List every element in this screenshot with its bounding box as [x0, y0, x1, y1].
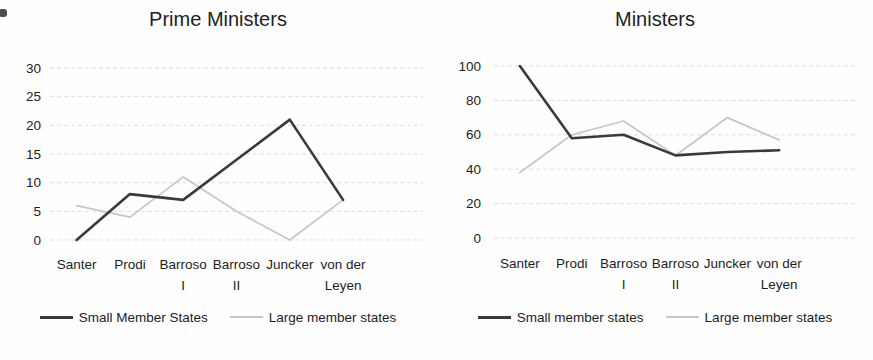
legend-label: Large member states [269, 310, 397, 325]
x-category-label: Barroso [213, 257, 260, 272]
legend-label: Small Member States [79, 310, 208, 325]
y-tick-label: 80 [466, 93, 481, 108]
y-tick-label: 10 [26, 175, 41, 190]
legend: Small Member States Large member states [0, 306, 436, 328]
series-line-marker [40, 316, 73, 319]
x-category-label: Santer [500, 256, 540, 271]
series-line-marker [230, 316, 263, 318]
x-category-label: Santer [57, 257, 97, 272]
x-category-label: Barroso [600, 256, 647, 271]
figure-two-line-charts: Prime Ministers 051015202530SanterProdiB… [0, 0, 873, 360]
x-category-label: Leyen [325, 278, 362, 293]
x-category-label: von der [757, 256, 803, 271]
x-category-label: Barroso [160, 257, 207, 272]
y-tick-label: 60 [466, 127, 481, 142]
legend-item: Large member states [666, 310, 833, 325]
y-tick-label: 20 [26, 118, 41, 133]
x-category-label: I [622, 277, 626, 292]
x-category-label: II [233, 278, 241, 293]
legend-item: Large member states [230, 310, 397, 325]
series-line-marker [666, 316, 699, 318]
y-tick-label: 40 [466, 162, 481, 177]
series-polyline [77, 177, 344, 240]
x-category-label: Prodi [556, 256, 588, 271]
x-category-label: Prodi [114, 257, 146, 272]
y-tick-label: 30 [26, 61, 41, 76]
y-tick-label: 5 [33, 204, 41, 219]
x-category-label: von der [321, 257, 367, 272]
x-category-label: Juncker [266, 257, 314, 272]
legend: Small member states Large member states [437, 306, 873, 328]
x-category-label: Juncker [704, 256, 752, 271]
legend-label: Small member states [517, 310, 644, 325]
chart-prime-ministers: Prime Ministers 051015202530SanterProdiB… [0, 0, 436, 360]
y-tick-label: 100 [458, 59, 481, 74]
plot-area: 051015202530SanterProdiBarrosoIBarrosoII… [0, 0, 436, 300]
x-category-label: Barroso [652, 256, 699, 271]
x-category-label: II [672, 277, 680, 292]
x-category-label: Leyen [761, 277, 798, 292]
legend-label: Large member states [705, 310, 833, 325]
x-category-label: I [181, 278, 185, 293]
y-tick-label: 0 [33, 233, 41, 248]
y-tick-label: 0 [473, 231, 481, 246]
plot-area: 020406080100SanterProdiBarrosoIBarrosoII… [437, 0, 873, 300]
legend-item: Small Member States [40, 310, 208, 325]
series-polyline [520, 66, 779, 155]
chart-ministers: Ministers 020406080100SanterProdiBarroso… [437, 0, 873, 360]
legend-item: Small member states [478, 310, 644, 325]
series-polyline [77, 120, 344, 240]
y-tick-label: 25 [26, 89, 41, 104]
y-tick-label: 15 [26, 147, 41, 162]
series-line-marker [478, 316, 511, 319]
y-tick-label: 20 [466, 196, 481, 211]
